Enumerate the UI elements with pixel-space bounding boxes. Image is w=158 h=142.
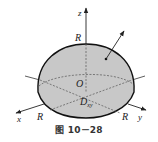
- hemisphere-diagram: z R O Dxy x R R y: [0, 0, 158, 142]
- y-axis-label: y: [137, 112, 142, 122]
- radius-y-label: R: [121, 111, 128, 122]
- axis-behind-left: [25, 76, 40, 80]
- origin-label: O: [76, 78, 83, 89]
- radius-top-label: R: [74, 32, 81, 43]
- region-label-subscript: xy: [86, 102, 93, 108]
- y-axis: [128, 104, 146, 110]
- radius-x-label: R: [36, 111, 43, 122]
- z-axis-label: z: [77, 8, 82, 18]
- figure-caption: 图 10－28: [0, 123, 158, 136]
